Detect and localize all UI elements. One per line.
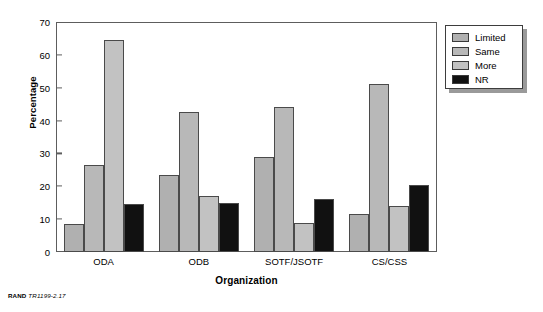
bar — [389, 206, 409, 252]
x-tick-label: SOTF/JSOTF — [265, 256, 323, 267]
legend-item-label: NR — [475, 75, 489, 85]
bar — [369, 84, 389, 252]
bar — [349, 214, 369, 252]
legend: LimitedSameMoreNR — [445, 25, 523, 89]
bar — [254, 157, 274, 252]
bar — [314, 199, 334, 252]
legend-item: NR — [452, 73, 522, 87]
legend-item-label: Limited — [475, 33, 506, 43]
bar — [219, 203, 239, 252]
legend-item: Limited — [452, 31, 522, 45]
bar — [104, 40, 124, 252]
bar — [124, 204, 144, 252]
bar — [274, 107, 294, 252]
bar-chart-figure: Percentage 010203040506070 ODAODBSOTF/JS… — [0, 0, 543, 312]
bar — [199, 196, 219, 252]
bar — [64, 224, 84, 252]
x-tick-label: ODB — [189, 256, 210, 267]
figure-source-note: RAND TR1199-2.17 — [8, 292, 66, 299]
legend-swatch — [452, 47, 469, 56]
figure-source-brand: RAND — [8, 292, 26, 299]
legend-item-label: More — [475, 61, 497, 71]
bar — [179, 112, 199, 252]
legend-item-label: Same — [475, 47, 500, 57]
bar — [294, 223, 314, 252]
legend-swatch — [452, 61, 469, 70]
bar — [84, 165, 104, 252]
x-tick-label: ODA — [93, 256, 114, 267]
bar — [159, 175, 179, 252]
figure-source-code: TR1199-2.17 — [28, 292, 65, 299]
legend-swatch — [452, 33, 469, 42]
bar — [409, 185, 429, 252]
x-tick-label: CS/CSS — [372, 256, 407, 267]
legend-item: More — [452, 59, 522, 73]
x-axis-title: Organization — [56, 275, 437, 286]
legend-item: Same — [452, 45, 522, 59]
legend-swatch — [452, 75, 469, 84]
